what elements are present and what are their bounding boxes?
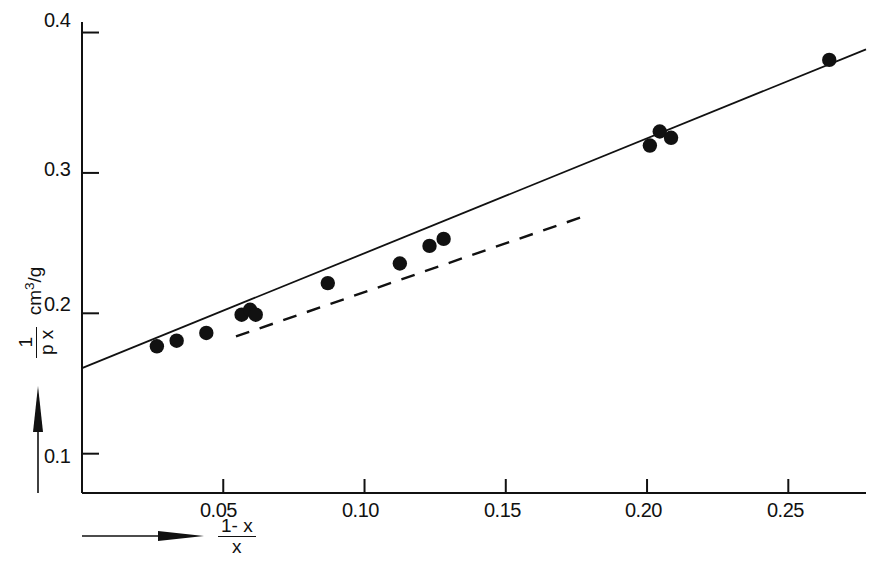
x-axis-denominator: x (218, 537, 256, 557)
y-axis-denominator: p x (37, 327, 57, 358)
right-arrow-icon (82, 531, 204, 541)
chart-canvas (0, 0, 874, 562)
solid-fit-line (82, 49, 866, 368)
y-axis-numerator: 1 (16, 327, 37, 358)
axes-group (82, 22, 866, 493)
y-tick-label-0: 0.4 (44, 9, 70, 32)
data-point (643, 138, 657, 152)
x-tick-label-2: 0.15 (484, 499, 521, 522)
y-axis-unit-prefix: cm (24, 290, 45, 315)
x-tick-group (223, 479, 788, 493)
y-tick-label-1: 0.3 (44, 158, 70, 181)
data-point (393, 256, 407, 270)
data-point (664, 131, 678, 145)
y-axis-unit: cm3/g (24, 267, 45, 316)
data-point (822, 53, 836, 67)
x-tick-label-3: 0.20 (625, 499, 662, 522)
data-point (150, 339, 164, 353)
x-tick-label-1: 0.10 (342, 499, 379, 522)
x-axis-fraction: 1- x x (218, 516, 256, 557)
data-point (422, 239, 436, 253)
y-axis-unit-exponent: 3 (22, 282, 37, 290)
data-point (169, 333, 183, 347)
data-point (199, 326, 213, 340)
data-point (249, 308, 263, 322)
y-tick-group (82, 33, 99, 454)
x-axis-title: 1- x x (218, 516, 256, 557)
y-tick-label-3: 0.1 (44, 445, 70, 468)
data-point-group (150, 53, 837, 354)
up-arrow-icon (33, 386, 43, 493)
data-point (321, 276, 335, 290)
x-tick-label-4: 0.25 (767, 499, 804, 522)
y-axis-unit-suffix: /g (24, 267, 45, 283)
y-axis-fraction: 1 p x (16, 327, 57, 358)
x-axis-numerator: 1- x (218, 516, 256, 537)
y-axis-title: 1 p x cm3/g (16, 267, 57, 358)
data-point (436, 232, 450, 246)
